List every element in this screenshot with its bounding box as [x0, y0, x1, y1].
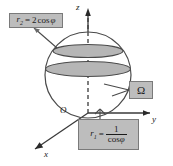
r1-variable: r1: [90, 129, 97, 140]
r1-fraction: 1 cosφ: [106, 125, 127, 145]
figure-canvas: z y x O r2 = 2 cos φ Ω r1 = 1 cosφ: [0, 0, 173, 166]
omega-symbol: Ω: [137, 85, 145, 96]
callout-r1: r1 = 1 cosφ: [78, 119, 139, 150]
r2-leader-line: [34, 28, 57, 48]
axis-label-x: x: [44, 149, 48, 159]
r1-equals: =: [98, 130, 105, 139]
omega-leader-line: [104, 84, 129, 96]
r1-numerator: 1: [111, 125, 122, 134]
r2-equals: =: [24, 16, 31, 25]
callout-omega: Ω: [129, 81, 153, 99]
origin-label: O: [60, 105, 67, 115]
z-axis: [85, 8, 91, 113]
r1-denominator: cosφ: [106, 135, 127, 144]
r2-cos: cos: [38, 16, 50, 25]
r2-phi: φ: [51, 16, 56, 25]
r2-variable: r2: [16, 15, 23, 26]
callout-r2: r2 = 2 cos φ: [9, 13, 63, 28]
axis-label-z: z: [76, 2, 80, 12]
axis-label-y: y: [152, 114, 156, 124]
upper-latitude-ellipse: [53, 45, 123, 58]
r2-coefficient: 2: [32, 16, 37, 25]
lower-latitude-ellipse: [46, 62, 131, 77]
